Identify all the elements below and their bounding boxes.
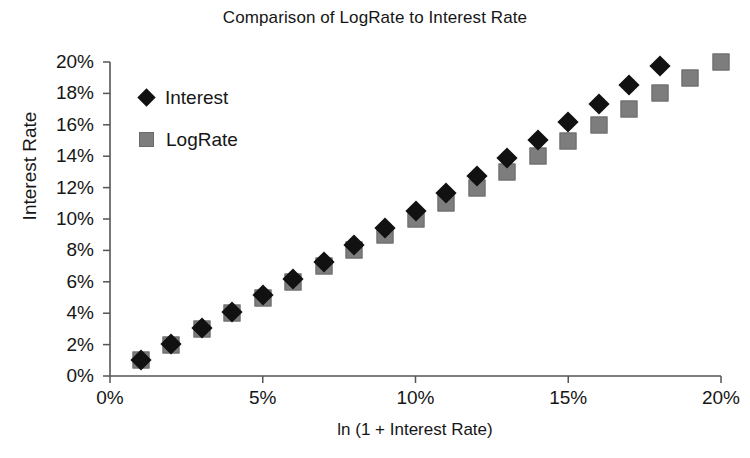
data-point-lograte <box>590 116 607 133</box>
chart-container: Comparison of LogRate to Interest Rate I… <box>0 0 750 458</box>
x-tick-label: 5% <box>223 388 303 407</box>
x-tick-label: 10% <box>376 388 456 407</box>
data-point-lograte <box>682 69 699 86</box>
y-tick-label: 0% <box>32 366 94 385</box>
y-tick-label: 16% <box>32 115 94 134</box>
legend-label-interest: Interest <box>165 88 228 107</box>
data-point-lograte <box>651 85 668 102</box>
y-tick-label: 8% <box>32 240 94 259</box>
x-tick-label: 15% <box>528 388 608 407</box>
y-tick-label: 18% <box>32 83 94 102</box>
y-tick-label: 6% <box>32 272 94 291</box>
y-tick-label: 14% <box>32 146 94 165</box>
x-tick-label: 20% <box>681 388 750 407</box>
y-tick-label: 2% <box>32 335 94 354</box>
x-tick-label: 0% <box>70 388 150 407</box>
data-point-lograte <box>713 54 730 71</box>
y-tick-label: 10% <box>32 209 94 228</box>
legend-item-lograte: LogRate <box>139 130 238 149</box>
x-axis-ticks <box>110 376 721 383</box>
square-marker-icon <box>139 132 154 147</box>
legend-item-interest: Interest <box>140 88 228 107</box>
y-tick-label: 12% <box>32 178 94 197</box>
y-tick-label: 20% <box>32 52 94 71</box>
y-tick-label: 4% <box>32 303 94 322</box>
diamond-marker-icon <box>137 88 155 106</box>
y-axis-ticks <box>103 62 110 376</box>
legend-label-lograte: LogRate <box>166 130 238 149</box>
data-point-lograte <box>560 132 577 149</box>
data-point-lograte <box>621 101 638 118</box>
